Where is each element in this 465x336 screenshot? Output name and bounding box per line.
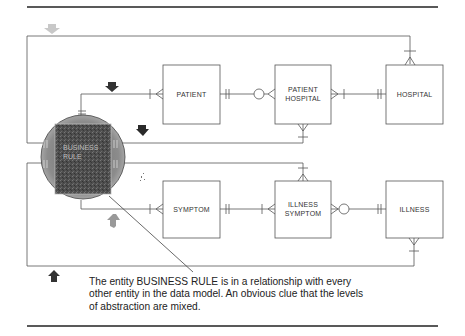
rel-business-rule-patienthospital [118,124,308,143]
hospital-label: HOSPITAL [397,91,433,98]
illness-symptom-label-1: ILLNESS [288,201,318,208]
caption: The entity BUSINESS RULE is in a relatio… [89,276,429,313]
sparkle-marks-icon [140,173,145,181]
patient-hospital-label-1: PATIENT [288,86,318,93]
caption-line-2: other entity in the data model. An obvio… [89,288,429,300]
rel-patient-patienthospital [220,89,275,99]
arrow-up-dark-icon [48,270,60,282]
patient-hospital-label-2: HOSPITAL [285,95,321,102]
illness-label: ILLNESS [399,206,429,213]
caption-line-1: The entity BUSINESS RULE is in a relatio… [89,276,429,288]
rel-symptom-illnesssymptom [220,204,275,214]
symptom-label: SYMPTOM [173,206,210,213]
caption-line-3: of abstraction are mixed. [89,301,429,313]
illness-symptom-label-2: SYMPTOM [285,210,322,217]
arrow-down-gray-icon [44,24,60,34]
arrow-up-gray-icon [107,214,120,228]
rel-business-rule-patient [78,89,163,118]
business-rule-label-line2: RULE [63,153,82,160]
rel-patienthospital-hospital [331,89,386,99]
patient-label: PATIENT [177,91,207,98]
arrow-down-dark-icon-2 [136,125,149,136]
arrow-down-dark-icon [105,82,119,92]
rel-illnesssymptom-illness [331,204,386,214]
business-rule-label-line1: BUSINESS [63,144,99,151]
entity-business-rule: BUSINESS RULE [41,115,125,199]
